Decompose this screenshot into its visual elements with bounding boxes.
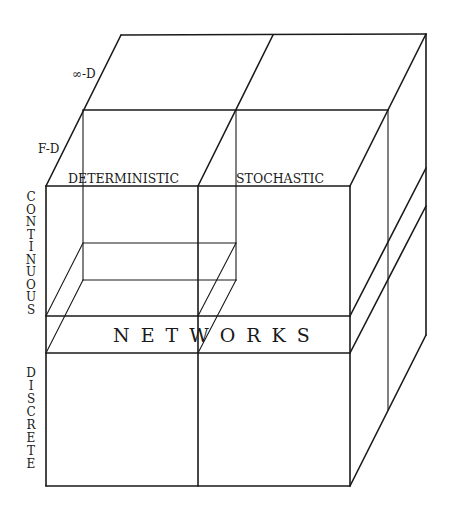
- stochastic-label: STOCHASTIC: [236, 171, 324, 186]
- svg-text:S: S: [27, 303, 35, 317]
- svg-text:D: D: [26, 366, 36, 380]
- discrete-label: D I S C R E T E: [26, 366, 36, 471]
- networks-label: NETWORKS: [113, 324, 321, 346]
- system-classification-cube: ∞-D F-D DETERMINISTIC STOCHASTIC NETWORK…: [0, 0, 452, 515]
- finite-dimensional-label: F-D: [38, 142, 59, 156]
- svg-text:R: R: [26, 418, 36, 432]
- deterministic-label: DETERMINISTIC: [68, 171, 179, 186]
- infinite-dimensional-label: ∞-D: [72, 67, 96, 81]
- svg-text:I: I: [29, 379, 34, 393]
- svg-text:E: E: [27, 457, 36, 471]
- svg-text:S: S: [27, 392, 35, 406]
- svg-text:T: T: [27, 444, 35, 458]
- svg-text:E: E: [27, 431, 36, 445]
- svg-text:C: C: [26, 405, 35, 419]
- continuous-label: C O N T I N U O U S: [26, 190, 37, 317]
- cube-right-face: [350, 34, 426, 486]
